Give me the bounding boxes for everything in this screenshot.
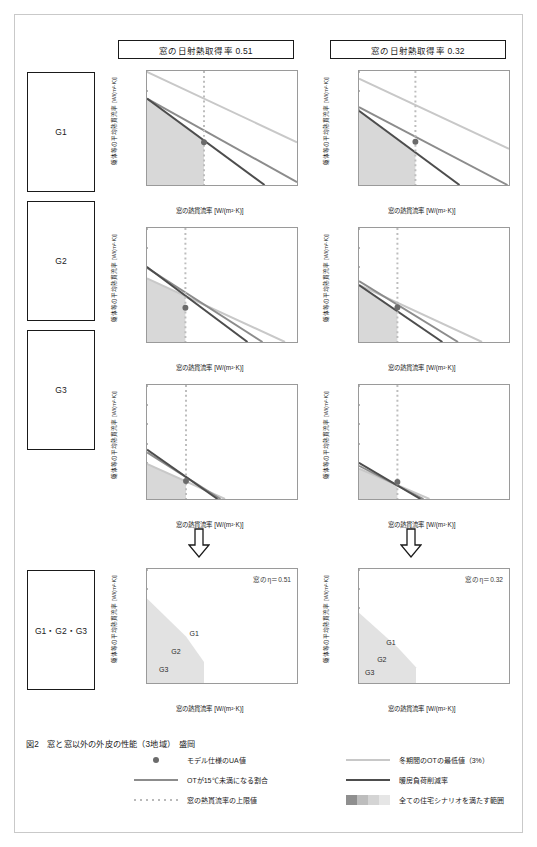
chart-summary-eta051: 躯体等の平均熱貫流率 [W/(m²·K)]00.10.20.30.40.50.6… — [112, 562, 308, 712]
gradient-bands-icon — [346, 795, 390, 805]
x-axis-label: 窓の熱貫流率 [W/(m²·K)] — [324, 363, 520, 372]
region-label-g1: G1 — [386, 638, 395, 645]
feasible-region — [147, 464, 186, 499]
filled-circle-icon — [134, 755, 178, 765]
y-axis-label: 躯体等の平均熱貫流率 [W/(m²·K)] — [322, 66, 334, 176]
legend-item-all-scenario-band: 全ての住宅シナリオを満たす範囲 — [346, 795, 504, 805]
y-axis-label: 躯体等の平均熱貫流率 [W/(m²·K)] — [110, 66, 122, 176]
chart-g1-eta032: 躯体等の平均熱貫流率 [W/(m²·K)]00.10.20.30.40.50.6… — [324, 64, 520, 214]
legend-label: 暖房負荷削減率 — [399, 775, 448, 785]
y-axis-label: 躯体等の平均熱貫流率 [W/(m²·K)] — [322, 223, 334, 333]
y-axis-label: 躯体等の平均熱貫流率 [W/(m²·K)] — [110, 380, 122, 490]
model-ua-marker — [182, 305, 188, 311]
legend-item-window-u-limit: 窓の熱貫流率の上限値 — [134, 795, 257, 805]
column-header-label: 窓の日射熱取得率 0.51 — [159, 44, 253, 56]
down-arrow-icon-left — [188, 528, 210, 558]
legend-label: 窓の熱貫流率の上限値 — [187, 795, 257, 805]
model-ua-marker — [394, 304, 400, 310]
plot-area: 00.10.20.30.40.50.6012345 — [358, 70, 510, 186]
x-axis-label: 窓の熱貫流率 [W/(m²·K)] — [112, 206, 308, 215]
solid-line-mid-icon — [134, 775, 178, 785]
y-axis-label: 躯体等の平均熱貫流率 [W/(m²·K)] — [110, 564, 122, 674]
legend-item-heating-reduction: 暖房負荷削減率 — [346, 775, 448, 785]
solid-line-light-icon — [346, 755, 390, 765]
plot-graphics — [359, 385, 509, 499]
x-axis-label: 窓の熱貫流率 [W/(m²·K)] — [324, 206, 520, 215]
chart-g1-eta051: 躯体等の平均熱貫流率 [W/(m²·K)]00.10.20.30.40.50.6… — [112, 64, 308, 214]
row-label-g3: G3 — [27, 330, 95, 450]
column-header-eta-051: 窓の日射熱取得率 0.51 — [118, 40, 294, 59]
plot-area: 00.10.20.30.40.50.6012345窓のη＝0.32G1G2G3 — [358, 568, 510, 684]
x-axis-label: 窓の熱貫流率 [W/(m²·K)] — [112, 520, 308, 529]
feasible-region — [147, 99, 204, 185]
plot-graphics — [147, 71, 297, 185]
down-arrow-icon-right — [400, 528, 422, 558]
row-label-text: G2 — [55, 256, 66, 266]
y-axis-label: 躯体等の平均熱貫流率 [W/(m²·K)] — [110, 223, 122, 333]
plot-graphics — [359, 71, 509, 185]
plot-graphics — [147, 569, 297, 683]
eta-annotation: 窓のη＝0.51 — [253, 574, 291, 584]
row-label-text: G1・G2・G3 — [35, 624, 87, 636]
plot-area: 00.10.20.30.40.50.6012345 — [146, 227, 298, 343]
region-label-g3: G3 — [159, 665, 168, 672]
column-header-label: 窓の日射熱取得率 0.32 — [371, 44, 465, 56]
plot-graphics — [359, 228, 509, 342]
chart-g3-eta051: 躯体等の平均熱貫流率 [W/(m²·K)]00.10.20.30.40.50.6… — [112, 378, 308, 528]
legend-label: OTが15℃未満になる割合 — [187, 775, 268, 785]
plot-graphics — [147, 228, 297, 342]
legend-label: 全ての住宅シナリオを満たす範囲 — [399, 795, 504, 805]
chart-g3-eta032: 躯体等の平均熱貫流率 [W/(m²·K)]00.10.20.30.40.50.6… — [324, 378, 520, 528]
plot-graphics — [147, 385, 297, 499]
row-label-text: G3 — [55, 385, 66, 395]
region-label-g3: G3 — [365, 669, 374, 676]
chart-g2-eta032: 躯体等の平均熱貫流率 [W/(m²·K)]00.10.20.30.40.50.6… — [324, 221, 520, 371]
band-g1 — [147, 598, 204, 683]
x-axis-label: 窓の熱貫流率 [W/(m²·K)] — [324, 520, 520, 529]
x-axis-label: 窓の熱貫流率 [W/(m²·K)] — [324, 704, 520, 713]
plot-graphics — [359, 569, 509, 683]
dotted-line-icon — [134, 795, 178, 805]
plot-area: 00.10.20.30.40.50.6012345窓のη＝0.51G1G2G3 — [146, 568, 298, 684]
region-label-g2: G2 — [377, 655, 386, 662]
model-ua-marker — [201, 139, 207, 145]
region-label-g1: G1 — [189, 629, 198, 636]
legend-item-winter-ot-min: 冬期間のOTの最低値（3%） — [346, 755, 489, 765]
region-label-g2: G2 — [171, 648, 180, 655]
legend-item-model-ua: モデル仕様のUA値 — [134, 755, 246, 765]
legend-item-ot-under-15: OTが15℃未満になる割合 — [134, 775, 268, 785]
chart-summary-eta032: 躯体等の平均熱貫流率 [W/(m²·K)]00.10.20.30.40.50.6… — [324, 562, 520, 712]
plot-area: 00.10.20.30.40.50.6012345 — [358, 227, 510, 343]
legend-label: 冬期間のOTの最低値（3%） — [399, 755, 489, 765]
plot-area: 00.10.20.30.40.50.6012345 — [146, 384, 298, 500]
plot-area: 00.10.20.30.40.50.6012345 — [358, 384, 510, 500]
model-ua-marker — [394, 479, 400, 485]
row-label-all: G1・G2・G3 — [27, 570, 95, 690]
column-header-eta-032: 窓の日射熱取得率 0.32 — [330, 40, 506, 59]
row-label-g2: G2 — [27, 201, 95, 321]
figure-caption: 図2 窓と窓以外の外皮の性能（3地域） 盛岡 — [26, 737, 196, 749]
legend-label: モデル仕様のUA値 — [187, 755, 246, 765]
model-ua-marker — [412, 139, 418, 145]
solid-line-dark-icon — [346, 775, 390, 785]
row-label-text: G1 — [55, 127, 66, 137]
row-label-g1: G1 — [27, 72, 95, 192]
y-axis-label: 躯体等の平均熱貫流率 [W/(m²·K)] — [322, 564, 334, 674]
plot-area: 00.10.20.30.40.50.6012345 — [146, 70, 298, 186]
x-axis-label: 窓の熱貫流率 [W/(m²·K)] — [112, 704, 308, 713]
y-axis-label: 躯体等の平均熱貫流率 [W/(m²·K)] — [322, 380, 334, 490]
x-axis-label: 窓の熱貫流率 [W/(m²·K)] — [112, 363, 308, 372]
chart-g2-eta051: 躯体等の平均熱貫流率 [W/(m²·K)]00.10.20.30.40.50.6… — [112, 221, 308, 371]
model-ua-marker — [183, 478, 189, 484]
eta-annotation: 窓のη＝0.32 — [465, 574, 503, 584]
